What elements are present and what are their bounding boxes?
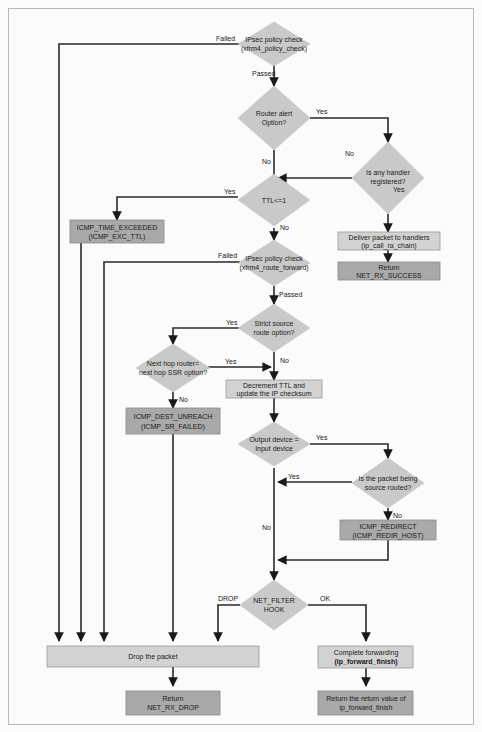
svg-text:Input device: Input device	[255, 445, 293, 453]
svg-text:NET_RX_SUCCESS: NET_RX_SUCCESS	[356, 272, 422, 280]
process-decrement-ttl: Decrement TTL and update the IP checksum	[226, 380, 322, 398]
label-router-alert-no: No	[262, 158, 271, 165]
svg-text:Next hop router=: Next hop router=	[147, 360, 199, 368]
svg-text:NET_FILTER: NET_FILTER	[253, 597, 295, 605]
label-any-handler-no: No	[345, 150, 354, 157]
svg-text:(ICMP_SR_FAILED): (ICMP_SR_FAILED)	[141, 423, 205, 431]
svg-text:Option?: Option?	[262, 119, 287, 127]
svg-text:update the IP checksum: update the IP checksum	[237, 390, 312, 398]
terminal-return-value: Return the return value of ip_forward_fi…	[318, 691, 413, 715]
decision-policy-check: IPsec policy check (xfrm4_policy_check)	[238, 22, 310, 66]
label-router-alert-yes: Yes	[316, 108, 328, 115]
svg-text:Output device =: Output device =	[249, 436, 298, 444]
svg-text:ip_forward_finish: ip_forward_finish	[340, 704, 393, 712]
process-complete-forwarding: Complete forwarding (ip_forward_finish)	[318, 646, 413, 668]
label-source-routed-no: No	[393, 512, 402, 519]
svg-text:Router alert: Router alert	[256, 110, 293, 117]
svg-text:Complete forwarding: Complete forwarding	[334, 649, 399, 657]
decision-next-hop: Next hop router= next hop SSR option?	[136, 344, 210, 392]
svg-text:next hop SSR option?: next hop SSR option?	[139, 369, 207, 377]
label-route-forward-failed: Failed	[218, 252, 237, 259]
svg-text:Deliver packet to handlers: Deliver packet to handlers	[349, 234, 430, 242]
decision-strict-source: Strict source route option?	[238, 304, 310, 352]
label-output-yes: Yes	[316, 434, 328, 441]
process-drop-packet: Drop the packet	[47, 646, 259, 667]
svg-text:(xfrm4_route_forward): (xfrm4_route_forward)	[239, 264, 308, 272]
terminal-return-success: Return NET_RX_SUCCESS	[338, 262, 440, 280]
svg-text:(ip_call_ra_chain): (ip_call_ra_chain)	[361, 242, 416, 250]
svg-text:IPsec policy check: IPsec policy check	[245, 36, 303, 44]
svg-text:IPsec policy check: IPsec policy check	[245, 255, 303, 263]
label-route-forward-passed: Passed	[279, 291, 302, 298]
decision-output-device: Output device = Input device	[238, 422, 310, 466]
svg-text:source routed?: source routed?	[365, 484, 412, 491]
label-source-routed-yes: Yes	[288, 473, 300, 480]
label-filter-drop: DROP	[218, 595, 239, 602]
svg-text:Is the packet being: Is the packet being	[359, 475, 418, 483]
terminal-return-drop: Return NET_RX_DROP	[126, 691, 220, 715]
decision-any-handler: Is any handler registered?	[352, 142, 424, 214]
decision-router-alert: Router alert Option?	[238, 86, 310, 150]
label-filter-ok: OK	[320, 595, 330, 602]
svg-text:ICMP_DEST_UNREACH: ICMP_DEST_UNREACH	[134, 413, 213, 421]
connectors	[59, 44, 388, 686]
svg-text:Return: Return	[162, 695, 183, 702]
process-deliver-packet: Deliver packet to handlers (ip_call_ra_c…	[338, 232, 440, 250]
svg-text:ICMP_TIME_EXCEEDED: ICMP_TIME_EXCEEDED	[77, 224, 158, 232]
svg-text:registered?: registered?	[370, 178, 405, 186]
svg-text:Return: Return	[378, 264, 399, 271]
svg-text:(ip_forward_finish): (ip_forward_finish)	[334, 658, 397, 666]
label-next-hop-no: No	[179, 396, 188, 403]
decision-net-filter: NET_FILTER HOOK	[240, 580, 308, 630]
label-ttl-yes: Yes	[224, 188, 236, 195]
label-ttl-no: No	[280, 224, 289, 231]
label-policy-passed: Passed	[252, 70, 275, 77]
svg-text:(ICMP_REDIR_HOST): (ICMP_REDIR_HOST)	[352, 532, 423, 540]
svg-text:Strict source: Strict source	[255, 320, 294, 327]
label-next-hop-yes: Yes	[225, 358, 237, 365]
label-any-handler-yes: Yes	[393, 186, 405, 193]
flowchart: IPsec policy check (xfrm4_policy_check) …	[0, 0, 482, 732]
svg-text:ICMP_REDIRECT: ICMP_REDIRECT	[359, 523, 417, 531]
process-icmp-redirect: ICMP_REDIRECT (ICMP_REDIR_HOST)	[340, 520, 436, 540]
svg-text:Decrement TTL and: Decrement TTL and	[243, 382, 305, 389]
svg-text:(ICMP_EXC_TTL): (ICMP_EXC_TTL)	[89, 233, 146, 241]
label-strict-yes: Yes	[226, 319, 238, 326]
decision-route-forward: IPsec policy check (xfrm4_route_forward)	[238, 240, 310, 286]
label-strict-no: No	[280, 357, 289, 364]
svg-text:(xfrm4_policy_check): (xfrm4_policy_check)	[241, 45, 307, 53]
svg-text:Drop the packet: Drop the packet	[128, 653, 177, 661]
svg-text:route option?: route option?	[254, 329, 295, 337]
process-icmp-time-exceeded: ICMP_TIME_EXCEEDED (ICMP_EXC_TTL)	[70, 220, 164, 243]
label-policy-failed: Failed	[216, 35, 235, 42]
svg-text:Return the return value of: Return the return value of	[326, 695, 405, 702]
svg-text:Is any handler: Is any handler	[366, 169, 411, 177]
decision-ttl: TTL<=1	[238, 174, 310, 226]
svg-text:TTL<=1: TTL<=1	[262, 197, 287, 204]
svg-text:HOOK: HOOK	[264, 606, 285, 613]
decision-source-routed: Is the packet being source routed?	[352, 458, 424, 508]
process-icmp-dest-unreach: ICMP_DEST_UNREACH (ICMP_SR_FAILED)	[126, 408, 220, 434]
svg-text:NET_RX_DROP: NET_RX_DROP	[147, 704, 199, 712]
label-output-no: No	[262, 524, 271, 531]
